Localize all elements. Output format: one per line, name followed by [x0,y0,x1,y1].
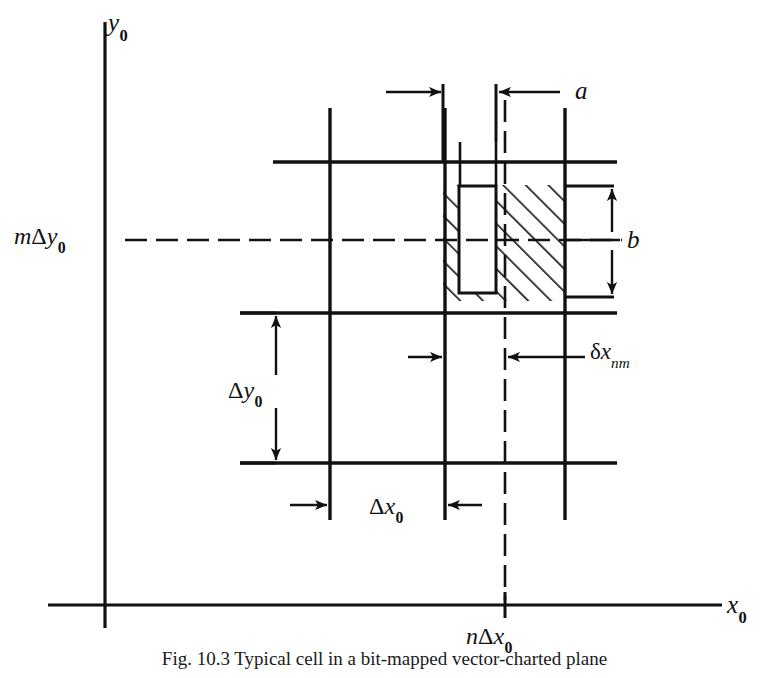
coordinate-axes [48,22,722,628]
label-m-delta-y0: mΔy0 [14,224,65,253]
cell-tick-marks [460,142,496,186]
figure-container: y0 x0 mΔy0 Δy0 Δx0 nΔx0 a b δxnm Fig. 10… [0,0,769,678]
label-delta-x-nm: δxnm [590,340,630,367]
label-a: a [575,78,588,103]
label-b: b [627,227,640,252]
label-delta-y0: Δy0 [228,378,262,407]
label-delta-x0: Δx0 [369,494,403,523]
figure-caption: Fig. 10.3 Typical cell in a bit-mapped v… [0,648,769,678]
dimension-b [566,186,620,297]
dimension-a [386,84,560,162]
diagram-canvas [0,0,769,678]
x-axis-label: x0 [727,592,746,623]
center-lines [125,100,622,600]
y-axis-label: y0 [108,10,127,41]
grid-lines [240,108,617,520]
